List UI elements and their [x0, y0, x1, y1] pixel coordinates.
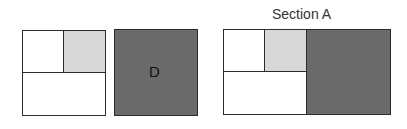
left-bottom-cell — [22, 72, 106, 116]
square-d: D — [114, 29, 198, 116]
section-a-top-left-cell — [223, 29, 266, 73]
square-d-label: D — [149, 63, 160, 80]
left-top-left-cell — [22, 30, 65, 74]
section-a-bottom-left-cell — [223, 71, 308, 115]
section-a-right-cell — [306, 29, 391, 115]
left-top-right-cell — [63, 30, 106, 74]
section-a-top-middle-cell — [264, 29, 308, 73]
section-a-title: Section A — [272, 6, 331, 22]
